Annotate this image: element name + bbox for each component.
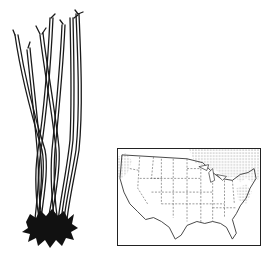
root-ball	[22, 209, 78, 248]
plant-illustration	[0, 0, 110, 250]
range-map	[117, 148, 261, 246]
